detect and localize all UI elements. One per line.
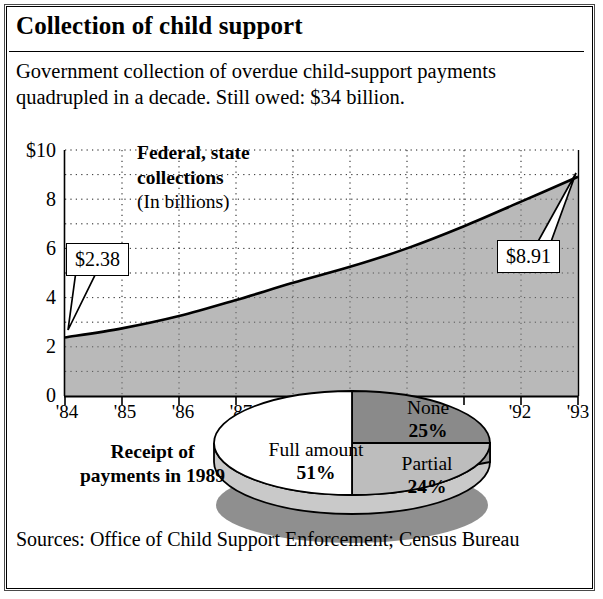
pie-label-full-value: 51%	[297, 462, 336, 483]
pie-label-none: None 25%	[378, 396, 478, 442]
pie-caption-line1: Receipt of	[60, 440, 245, 464]
pie-label-none-value: 25%	[409, 420, 448, 441]
pie-caption-line2: payments in 1989	[60, 464, 245, 488]
pie-label-partial: Partial 24%	[372, 452, 482, 498]
pie-chart	[0, 0, 603, 599]
pie-label-partial-value: 24%	[408, 476, 447, 497]
pie-label-partial-name: Partial	[372, 452, 482, 475]
sources-note: Sources: Office of Child Support Enforce…	[16, 527, 519, 552]
pie-label-full: Full amount 51%	[256, 438, 376, 484]
pie-label-none-name: None	[378, 396, 478, 419]
pie-caption: Receipt of payments in 1989	[60, 440, 245, 488]
pie-label-full-name-1: Full amount	[256, 438, 376, 461]
